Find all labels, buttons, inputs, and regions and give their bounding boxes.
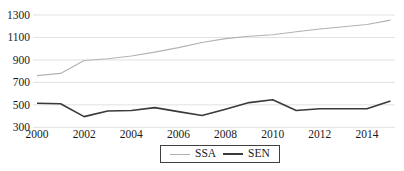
legend-item-sen: SEN: [223, 148, 270, 160]
gridlines: [33, 15, 395, 127]
svg-text:2010: 2010: [261, 128, 284, 140]
ssa-line-sample: [170, 154, 190, 155]
svg-text:700: 700: [13, 76, 31, 88]
y-axis-tick-labels: 30050070090011001300: [7, 9, 30, 133]
data-series-lines: [37, 20, 391, 117]
legend-item-ssa: SSA: [170, 148, 216, 160]
svg-text:2002: 2002: [73, 128, 96, 140]
series-line-ssa: [37, 20, 391, 76]
svg-text:2012: 2012: [308, 128, 331, 140]
x-axis-tick-labels: 20002002200420062008201020122014: [26, 128, 379, 140]
series-line-sen: [37, 100, 391, 117]
sen-line-sample: [223, 153, 243, 155]
legend-label-ssa: SSA: [195, 148, 216, 160]
svg-text:1100: 1100: [7, 31, 30, 43]
svg-text:2014: 2014: [355, 128, 378, 140]
svg-text:2004: 2004: [120, 128, 143, 140]
svg-text:900: 900: [13, 54, 31, 66]
chart-legend: SSA SEN: [160, 145, 280, 163]
line-chart: 30050070090011001300 2000200220042006200…: [0, 0, 404, 171]
svg-text:1300: 1300: [7, 9, 30, 21]
svg-text:2006: 2006: [167, 128, 190, 140]
svg-text:2008: 2008: [214, 128, 237, 140]
legend-label-sen: SEN: [248, 148, 270, 160]
svg-text:2000: 2000: [26, 128, 49, 140]
svg-text:500: 500: [13, 99, 31, 111]
